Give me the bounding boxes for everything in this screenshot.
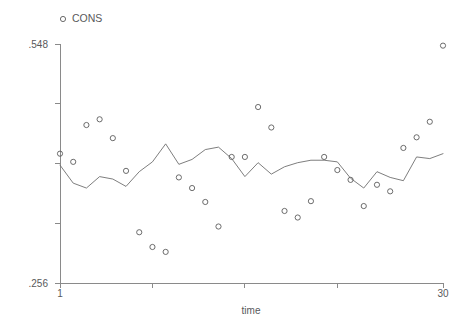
scatter-points-group <box>57 43 445 254</box>
scatter-point <box>440 43 445 48</box>
y-axis-tick-label: .548 <box>29 39 49 50</box>
scatter-point <box>97 117 102 122</box>
scatter-point <box>361 203 366 208</box>
scatter-point <box>388 189 393 194</box>
scatter-point <box>84 122 89 127</box>
scatter-point <box>256 104 261 109</box>
scatter-point <box>176 175 181 180</box>
scatter-point <box>137 230 142 235</box>
scatter-point <box>123 168 128 173</box>
scatter-point <box>427 119 432 124</box>
scatter-point <box>216 224 221 229</box>
scatter-point <box>374 182 379 187</box>
chart-container: .548.256 130 time CONS <box>0 0 473 326</box>
scatter-point <box>110 136 115 141</box>
scatter-point <box>308 199 313 204</box>
y-axis-ticks <box>55 44 60 283</box>
scatter-point <box>242 154 247 159</box>
x-axis-tick-label: 1 <box>57 288 63 299</box>
scatter-point <box>71 159 76 164</box>
x-axis-title: time <box>242 305 261 316</box>
scatter-point <box>269 125 274 130</box>
scatter-point <box>189 185 194 190</box>
legend-marker-circle-icon <box>60 16 65 21</box>
y-axis-tick-labels: .548.256 <box>29 39 49 289</box>
fitted-line-series <box>60 144 443 188</box>
scatter-line-chart: .548.256 130 time CONS <box>0 0 473 326</box>
scatter-point <box>295 215 300 220</box>
x-axis-tick-label: 30 <box>437 288 449 299</box>
scatter-point <box>322 154 327 159</box>
scatter-point <box>414 135 419 140</box>
scatter-point <box>163 249 168 254</box>
legend: CONS <box>60 12 102 24</box>
scatter-point <box>203 199 208 204</box>
scatter-point <box>282 208 287 213</box>
scatter-point <box>150 244 155 249</box>
legend-label-cons: CONS <box>72 12 102 24</box>
scatter-point <box>335 167 340 172</box>
y-axis-tick-label: .256 <box>29 278 49 289</box>
fitted-line-path <box>60 144 443 188</box>
scatter-point <box>401 145 406 150</box>
x-axis-ticks <box>60 283 443 288</box>
x-axis-tick-labels: 130 <box>57 288 449 299</box>
